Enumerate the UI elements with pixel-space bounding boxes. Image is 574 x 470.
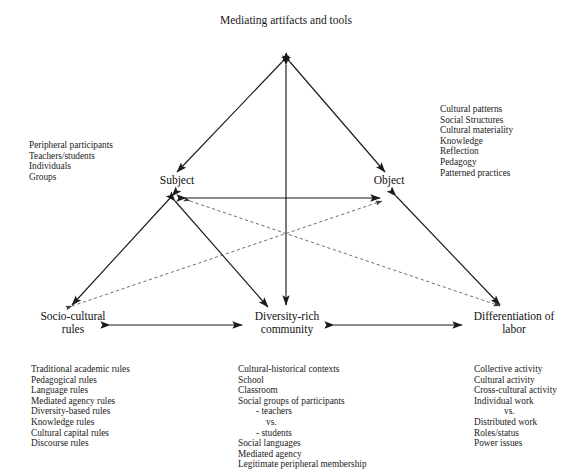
edge-subject-labor-dashed (190, 201, 500, 306)
annotation-line: - students (238, 428, 367, 439)
node-rules-line2: rules (14, 323, 132, 336)
annotation-line: Legitimate peripheral membership (238, 459, 367, 470)
node-labor-line1: Differentiation of (455, 310, 573, 323)
annotation-line: Social groups of participants (238, 396, 367, 407)
edge-mediating-subject (177, 62, 282, 172)
annotation-line: Knowledge (440, 136, 513, 147)
node-community-line2: community (228, 323, 346, 336)
annotation-object-list: Cultural patterns Social Structures Cult… (440, 104, 513, 178)
annotation-line: Knowledge rules (31, 417, 130, 428)
annotation-line: Pedagogical rules (31, 375, 130, 386)
annotation-line: - teachers (238, 406, 367, 417)
node-labor-line2: labor (455, 323, 573, 336)
annotation-line: Collective activity (474, 364, 557, 375)
annotation-line: Groups (29, 172, 113, 183)
annotation-labor-list: Collective activity Cultural activity Cr… (474, 364, 557, 449)
edge-mediating-object (290, 62, 385, 172)
annotation-line: Cultural materiality (440, 125, 513, 136)
node-object: Object (345, 174, 433, 187)
annotation-line: School (238, 375, 367, 386)
node-subject-label: Subject (133, 174, 221, 187)
node-rules-line1: Socio-cultural (14, 310, 132, 323)
annotation-line: Mediated agency (238, 449, 367, 460)
node-community-line1: Diversity-rich (228, 310, 346, 323)
node-mediating-line2: artifacts and tools (270, 14, 352, 26)
annotation-line: Mediated agency rules (31, 396, 130, 407)
annotation-line: Peripheral participants (29, 140, 113, 151)
annotation-line: Cross-cultural activity (474, 385, 557, 396)
annotation-line: Diversity-based rules (31, 406, 130, 417)
node-socio-cultural-rules: Socio-cultural rules (14, 310, 132, 335)
annotation-community-list: Cultural-historical contexts School Clas… (238, 364, 367, 470)
annotation-line: Social Structures (440, 115, 513, 126)
edge-object-labor (396, 196, 500, 305)
node-subject: Subject (133, 174, 221, 187)
node-diversity-rich-community: Diversity-rich community (228, 310, 346, 335)
annotation-line: Distributed work (474, 417, 557, 428)
annotation-line: Reflection (440, 146, 513, 157)
node-object-label: Object (345, 174, 433, 187)
annotation-line: Classroom (238, 385, 367, 396)
annotation-line: Roles/status (474, 428, 557, 439)
annotation-line: Discourse rules (31, 438, 130, 449)
annotation-subject-list: Peripheral participants Teachers/student… (29, 140, 113, 182)
annotation-line: Individuals (29, 161, 113, 172)
annotation-line: Cultural patterns (440, 104, 513, 115)
annotation-rules-list: Traditional academic rules Pedagogical r… (31, 364, 130, 449)
annotation-line-vs: vs. (238, 417, 367, 428)
node-differentiation-of-labor: Differentiation of labor (455, 310, 573, 335)
annotation-line: Language rules (31, 385, 130, 396)
annotation-line: Power issues (474, 438, 557, 449)
node-mediating-artifacts: Mediating artifacts and tools (186, 14, 386, 27)
annotation-line: Pedagogy (440, 157, 513, 168)
annotation-line: Social languages (238, 438, 367, 449)
annotation-line: Cultural capital rules (31, 428, 130, 439)
annotation-line: Patterned practices (440, 168, 513, 179)
edge-subject-community (175, 201, 268, 307)
annotation-line: Individual work (474, 396, 557, 407)
node-mediating-line1: Mediating (220, 14, 267, 26)
annotation-line: Traditional academic rules (31, 364, 130, 375)
annotation-line: Teachers/students (29, 151, 113, 162)
annotation-line: Cultural-historical contexts (238, 364, 367, 375)
annotation-line: Cultural activity (474, 375, 557, 386)
annotation-line-vs: vs. (474, 406, 557, 417)
